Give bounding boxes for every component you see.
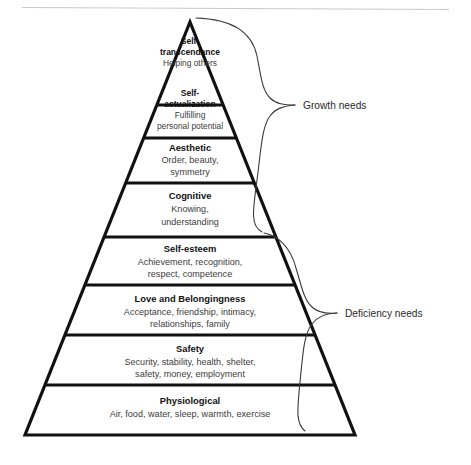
tier-desc-safety-line1: Security, stability, health, shelter, [124,357,255,367]
tier-desc-cognitive-line2: understanding [161,217,219,227]
tier-desc-self-esteem-line2: respect, competence [148,269,232,279]
brace-label-growth-needs: Growth needs [303,100,366,111]
tier-title-self-actualization-line1: Self- [181,88,200,98]
tier-title-aesthetic: Aesthetic [169,142,211,153]
tier-desc-love-and-belongingness-line1: Acceptance, friendship, intimacy, [124,307,256,317]
tier-title-safety: Safety [176,343,205,354]
tier-title-self-transcendance-line2: transcendance [160,47,220,57]
tier-desc-aesthetic-line2: symmetry [170,167,210,177]
tier-title-self-transcendance-line1: Self- [181,36,200,46]
tier-desc-aesthetic-line1: Order, beauty, [162,155,219,165]
tier-desc-self-transcendance-line1: Helping others [163,58,217,68]
tier-desc-self-actualization-line2: personal potential [157,121,223,131]
brace-label-deficiency-needs: Deficiency needs [345,308,423,319]
tier-title-physiological: Physiological [160,395,220,406]
tier-desc-love-and-belongingness-line2: relationships, family [150,319,230,329]
tier-title-self-esteem: Self-esteem [164,243,217,254]
tier-title-love-and-belongingness: Love and Belongingness [135,293,246,304]
top-divider-rule [22,8,449,10]
tier-desc-cognitive-line1: Knowing, [171,204,208,214]
tier-title-cognitive: Cognitive [169,190,212,201]
tier-desc-self-actualization-line1: Fulfilling [175,110,206,120]
tier-desc-safety-line2: safety, money, employment [135,369,245,379]
tier-desc-self-esteem-line1: Achievement, recognition, [138,257,243,267]
pyramid-svg-canvas: Self- transcendance Helping others Self-… [0,0,471,465]
maslow-pyramid-diagram: Self- transcendance Helping others Self-… [0,0,471,465]
tier-desc-physiological-line1: Air, food, water, sleep, warmth, exercis… [110,409,271,419]
tier-title-self-actualization-line2: actualization [164,99,215,109]
